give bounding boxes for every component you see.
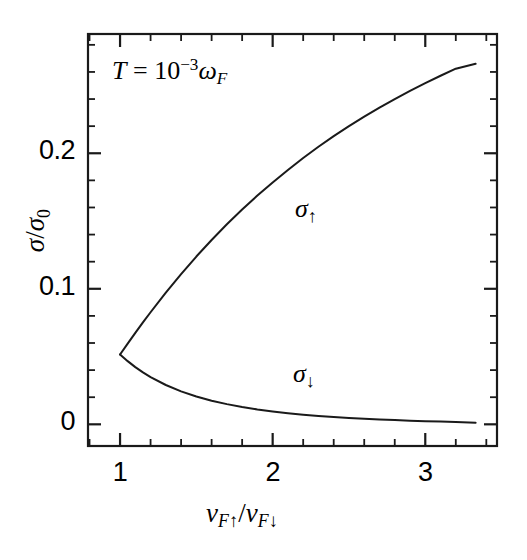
y-tick-label-0: 0 xyxy=(5,408,75,435)
x-title-slash: / xyxy=(238,498,246,528)
x-tick-label-3: 3 xyxy=(405,459,445,486)
y-title-slash: / xyxy=(20,231,50,239)
annotation-omega: ω xyxy=(198,56,216,85)
curve-label-sigma-down: σ↓ xyxy=(293,361,315,390)
curve-down-arrow-icon: ↓ xyxy=(306,371,315,391)
y-axis-title: σ/σ0 xyxy=(22,186,53,276)
annotation-omega-subscript: F xyxy=(217,69,227,88)
spin-up-arrow-icon: ↑ xyxy=(229,510,238,531)
curve-label-sigma-up: σ↑ xyxy=(295,196,317,225)
y-title-sigma-zero: σ xyxy=(20,218,50,231)
spin-down-arrow-icon: ↓ xyxy=(269,510,278,531)
x-axis-title: vF↑/vF↓ xyxy=(206,500,278,531)
figure-container: T = 10−3ωF σ/σ0 vF↑/vF↓ σ↑ σ↓ 1 2 3 0 0.… xyxy=(0,0,527,560)
annotation-exponent: −3 xyxy=(180,55,198,74)
annotation-equals: = 10 xyxy=(126,56,180,85)
annotation-temperature: T = 10−3ωF xyxy=(112,56,227,87)
y-title-subscript-zero: 0 xyxy=(34,209,54,218)
curve-up-arrow-icon: ↑ xyxy=(308,206,317,226)
x-title-v-denominator-subF: F xyxy=(258,511,269,531)
curve-up-sigma-symbol: σ xyxy=(295,194,308,223)
x-title-v-denominator: v xyxy=(246,498,258,528)
y-title-sigma: σ xyxy=(20,239,50,252)
y-tick-label-0-2: 0.2 xyxy=(5,137,75,164)
x-tick-label-1: 1 xyxy=(100,459,140,486)
annotation-T-symbol: T xyxy=(112,56,126,85)
curve-down-sigma-symbol: σ xyxy=(293,359,306,388)
x-title-v-numerator-subF: F xyxy=(218,511,229,531)
y-tick-label-0-1: 0.1 xyxy=(5,273,75,300)
x-tick-label-2: 2 xyxy=(253,459,293,486)
x-title-v-numerator: v xyxy=(206,498,218,528)
